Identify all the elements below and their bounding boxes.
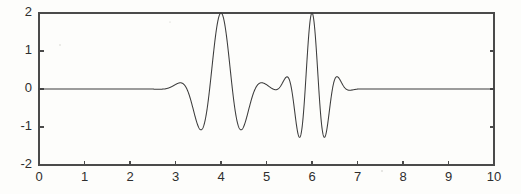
y-tick-label: -1 [20, 118, 32, 133]
x-tick-label: 5 [263, 169, 270, 184]
x-tick-label: 0 [35, 169, 42, 184]
x-tick-label: 6 [308, 169, 315, 184]
x-tick-label: 8 [399, 169, 406, 184]
x-tick-label: 9 [445, 169, 452, 184]
y-axis-tick-labels: -2-1012 [20, 4, 32, 171]
figure-container: 012345678910 -2-1012 [0, 0, 521, 194]
plot-canvas: 012345678910 -2-1012 [0, 0, 521, 194]
data-layer [39, 13, 494, 137]
y-tick-label: 2 [25, 4, 32, 19]
scan-noise [59, 21, 383, 171]
x-axis-ticks [39, 161, 494, 166]
signal-curve [39, 13, 494, 137]
x-tick-label: 7 [354, 169, 361, 184]
x-tick-label: 2 [126, 169, 133, 184]
x-tick-label: 4 [217, 169, 224, 184]
y-tick-label: 1 [25, 42, 32, 57]
x-tick-label: 3 [172, 169, 179, 184]
x-tick-label: 10 [487, 169, 501, 184]
x-tick-label: 1 [81, 169, 88, 184]
x-axis-tick-labels: 012345678910 [35, 169, 501, 184]
y-tick-label: -2 [20, 156, 32, 171]
y-tick-label: 0 [25, 80, 32, 95]
